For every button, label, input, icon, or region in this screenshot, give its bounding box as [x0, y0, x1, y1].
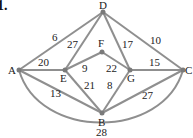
problem-number: 1.: [0, 0, 8, 13]
node-F: [100, 50, 105, 55]
node-label: B: [98, 116, 105, 128]
node-label: D: [99, 0, 107, 11]
edge-weight-label: 17: [122, 38, 134, 50]
node-label: E: [60, 72, 67, 84]
node-label: C: [185, 64, 192, 76]
node-A: [17, 68, 22, 73]
edge-weight-label: 9: [82, 62, 88, 74]
weighted-graph-diagram: 1. 62717102092215218132728DAEFGCB: [0, 0, 193, 138]
node-label: G: [127, 72, 135, 84]
edge-weight-label: 8: [107, 79, 113, 91]
node-label: F: [98, 37, 104, 49]
edge-weight-label: 6: [52, 31, 58, 43]
edge-weight-label: 10: [150, 34, 162, 46]
node-B: [100, 111, 105, 116]
edge-A-D: [19, 12, 103, 70]
edge-weight-label: 22: [106, 62, 117, 74]
edge-weight-label: 27: [67, 38, 79, 50]
edge-weight-label: 21: [84, 79, 95, 91]
edge-weight-label: 20: [38, 56, 50, 68]
edge-weight-label: 13: [50, 87, 62, 99]
node-label: A: [8, 64, 16, 76]
edge-E-B: [65, 70, 102, 113]
edge-weight-label: 27: [142, 89, 154, 101]
edge-weight-label: 15: [149, 56, 161, 68]
